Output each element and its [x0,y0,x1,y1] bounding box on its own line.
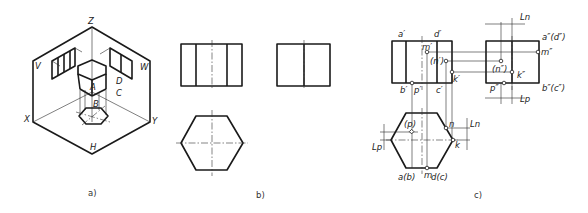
label-c-front: c′ [436,85,443,95]
label-a-front: a′ [398,29,405,39]
label-m-front: m′ [422,42,432,52]
figure-b-caption: b) [256,190,265,200]
label-lp-top: Lp [372,142,382,152]
label-d-front: d′ [434,29,441,39]
figure-a-isometric: Z X Y V W H A B C D a) [23,16,158,198]
z-axis-label: Z [87,16,94,26]
point-n-front [444,59,448,63]
x-axis [33,92,92,122]
label-b-front: b′ [400,85,407,95]
h-plane-projection [79,108,108,124]
face-c-label: C [116,88,122,98]
point-m-side [536,50,540,54]
label-k-top: k [455,140,461,150]
point-k-side [510,70,514,74]
label-bc-side: b″(c″) [542,83,565,93]
point-n-side [499,59,503,63]
y-axis-label: Y [152,116,158,126]
label-n-front: (n′) [430,56,444,66]
w-plane-label: W [140,62,149,72]
projection-diagram: Z X Y V W H A B C D a) b) [0,0,588,213]
label-n-side: (n″) [492,64,507,74]
v-plane-label: V [35,61,42,71]
front-view [181,44,242,86]
label-p-top: (p) [404,119,416,129]
label-ad-side: a″(d″) [542,32,566,42]
label-k-side: k″ [517,70,526,80]
x-axis-label: X [23,114,30,124]
label-p-side: p″ [489,83,499,93]
figure-c-caption: c) [474,190,482,200]
label-p-front: p′ [413,85,421,95]
face-a-label: A [89,82,96,92]
figure-c-point-projections: a′ d′ m′ (n′) k′ b′ p′ c′ a″(d″) m″ (n″)… [372,12,566,200]
figure-b-three-views: b) [176,40,330,200]
label-lp-side: Lp [520,94,530,104]
label-dc-top: d(c) [431,172,448,182]
figure-a-caption: a) [88,188,97,198]
point-n-top [444,126,448,130]
face-b-label: B [93,99,99,109]
point-p-side [502,81,506,85]
label-ab-top: a(b) [398,172,415,182]
point-p-top [409,129,414,134]
label-n-top: n [449,119,454,129]
h-plane-label: H [90,142,97,152]
label-ln-side: Ln [520,12,530,22]
label-ln-top: Ln [470,119,480,129]
face-d-label: D [116,76,123,86]
label-m-side: m″ [541,47,553,57]
label-k-front: k′ [453,74,460,84]
